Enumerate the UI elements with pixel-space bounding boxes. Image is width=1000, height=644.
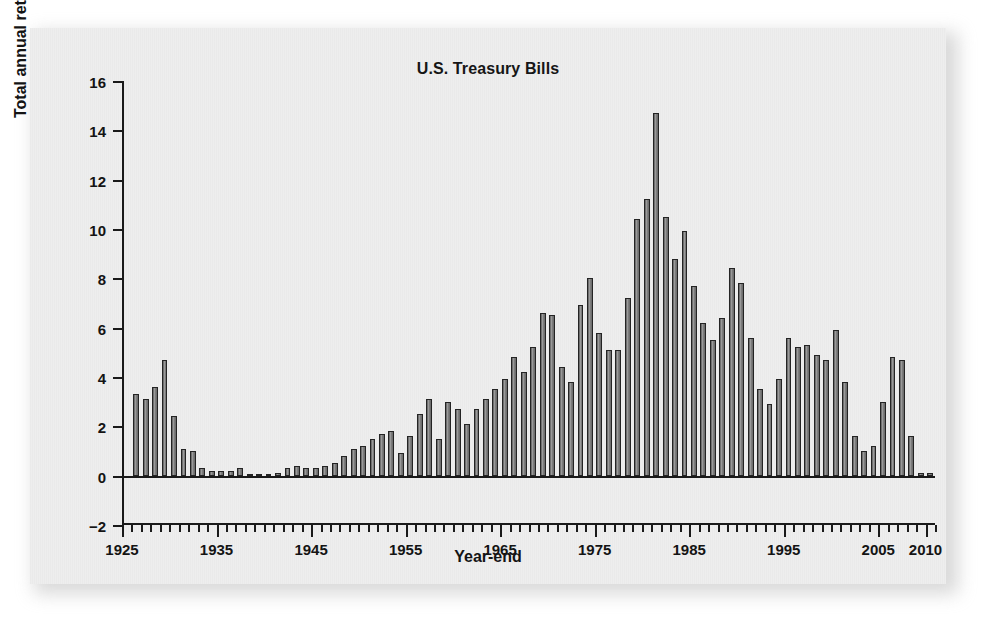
x-tick-major (217, 525, 219, 537)
y-tick: 14 (113, 130, 122, 132)
x-tick-minor (822, 525, 824, 532)
bar (464, 424, 470, 476)
x-tick-minor (907, 525, 909, 532)
bar (682, 231, 688, 475)
x-tick-minor (226, 525, 228, 532)
x-tick-major (784, 525, 786, 537)
bar (294, 466, 300, 476)
x-tick-minor (150, 525, 152, 532)
x-tick-minor (576, 525, 578, 532)
x-tick-minor (869, 525, 871, 532)
x-tick-minor (651, 525, 653, 532)
bar (171, 416, 177, 475)
x-tick-minor (519, 525, 521, 532)
x-tick-major (878, 525, 880, 537)
bar (313, 468, 319, 475)
x-tick-minor (207, 525, 209, 532)
x-tick-minor (614, 525, 616, 532)
bar (795, 347, 801, 475)
bar (890, 357, 896, 475)
x-tick-minor (141, 525, 143, 532)
x-tick-minor (604, 525, 606, 532)
bar (379, 434, 385, 476)
bar (502, 379, 508, 475)
y-tick-label: 2 (98, 419, 106, 436)
y-tick: 10 (113, 229, 122, 231)
bar (483, 399, 489, 475)
x-tick-minor (481, 525, 483, 532)
x-tick-minor (387, 525, 389, 532)
bar (833, 330, 839, 476)
x-tick-minor (131, 525, 133, 532)
bar (615, 350, 621, 476)
x-tick-minor (793, 525, 795, 532)
bar (388, 431, 394, 475)
bar (691, 286, 697, 476)
x-tick-major (311, 525, 313, 537)
y-tick: −2 (113, 525, 122, 527)
y-axis-title: Total annual returns (in percent) (12, 0, 30, 118)
x-tick-minor (840, 525, 842, 532)
bar (606, 350, 612, 476)
bar (927, 473, 933, 475)
bar (719, 318, 725, 476)
bar (748, 338, 754, 476)
x-tick-minor (935, 525, 937, 532)
x-tick-minor (746, 525, 748, 532)
x-tick-major (500, 525, 502, 537)
x-tick-minor (396, 525, 398, 532)
bar (370, 439, 376, 476)
y-tick-label: 14 (89, 123, 106, 140)
bar (341, 456, 347, 476)
bar (738, 283, 744, 475)
x-tick-minor (670, 525, 672, 532)
bar (823, 360, 829, 476)
y-tick-label: 4 (98, 370, 106, 387)
x-tick-minor (415, 525, 417, 532)
x-tick-minor (443, 525, 445, 532)
x-tick-minor (850, 525, 852, 532)
x-tick-minor (160, 525, 162, 532)
x-tick-minor (254, 525, 256, 532)
bar (786, 338, 792, 476)
x-tick-major (926, 525, 928, 537)
bar (511, 357, 517, 475)
x-tick-major (595, 525, 597, 537)
y-tick-label: 6 (98, 320, 106, 337)
x-tick-minor (623, 525, 625, 532)
x-tick-minor (803, 525, 805, 532)
bar (587, 278, 593, 475)
x-tick-major (406, 525, 408, 537)
bar (218, 471, 224, 476)
x-tick-minor (264, 525, 266, 532)
bar (199, 468, 205, 475)
bar (814, 355, 820, 476)
bar (228, 471, 234, 476)
y-tick-label: 0 (98, 468, 106, 485)
bar (181, 449, 187, 476)
bar (530, 347, 536, 475)
bar (767, 404, 773, 476)
bar (559, 367, 565, 476)
bar (842, 382, 848, 476)
y-tick-label: −2 (89, 518, 106, 535)
x-tick-minor (812, 525, 814, 532)
bar (133, 394, 139, 475)
x-tick-minor (566, 525, 568, 532)
x-tick-minor (708, 525, 710, 532)
x-tick-minor (538, 525, 540, 532)
x-tick-minor (529, 525, 531, 532)
plot-area: 1614121086420−2 192519351945195519651975… (122, 81, 935, 525)
x-tick-minor (718, 525, 720, 532)
bar (152, 387, 158, 476)
x-tick-minor (547, 525, 549, 532)
bar (549, 315, 555, 475)
x-tick-minor (283, 525, 285, 532)
y-tick: 4 (113, 377, 122, 379)
x-tick-minor (680, 525, 682, 532)
bar (625, 298, 631, 476)
x-tick-minor (736, 525, 738, 532)
y-tick: 8 (113, 278, 122, 280)
x-tick-minor (472, 525, 474, 532)
bar (266, 474, 272, 476)
